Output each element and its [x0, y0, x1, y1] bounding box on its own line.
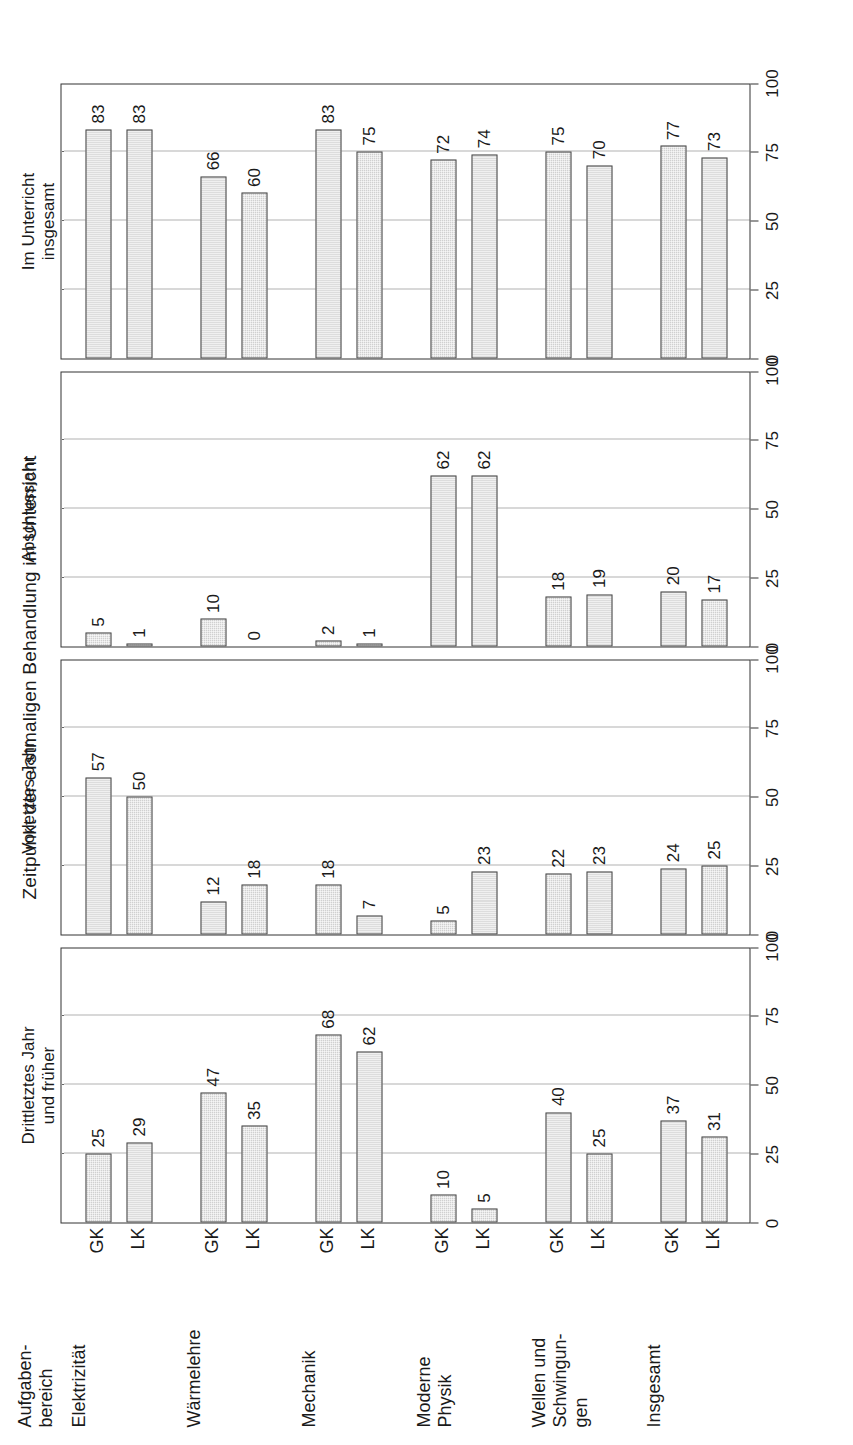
panel-title: Vorletztes Jahr	[18, 659, 38, 935]
axis-tick-label-0: 0	[762, 930, 782, 939]
bar-value-label: 5	[433, 905, 453, 914]
axis-tick-label-100: 100	[762, 69, 782, 97]
group-tick-label-lk: LK	[357, 1227, 378, 1249]
category-label-line: gen	[570, 1397, 590, 1427]
bar	[241, 1125, 267, 1222]
bar	[471, 154, 497, 358]
bar-value-label: 83	[318, 104, 338, 123]
bar	[356, 1051, 382, 1222]
axis-tick	[750, 151, 758, 152]
panel-title: Abschlussjahr	[18, 371, 38, 647]
axis-tick-label-25: 25	[762, 281, 782, 300]
panel-title: Drittletztes Jahrund früher	[18, 947, 58, 1223]
panel-grid: Drittletztes Jahrund früher2529473568621…	[60, 83, 820, 1223]
bar	[471, 475, 497, 646]
bar	[241, 884, 267, 934]
group-tick-label-gk: GK	[661, 1227, 682, 1253]
group-tick-label-gk: GK	[546, 1227, 567, 1253]
rotated-figure-wrapper: Zeitpunkt der erstmaligen Behandlung im …	[0, 0, 853, 1445]
group-tick-label-column: GKLKGKLKGKLKGKLKGKLKGKLK	[60, 1223, 750, 1269]
category-label-line: Schwingun-	[549, 1333, 569, 1427]
bar-value-label: 50	[129, 771, 149, 790]
group-tick-label-gk: GK	[201, 1227, 222, 1253]
gridline-50	[61, 795, 749, 796]
gridline-50	[61, 1083, 749, 1084]
bar-value-label: 60	[244, 167, 264, 186]
axis-tick-label-50: 50	[762, 212, 782, 231]
bar-value-label: 25	[704, 840, 724, 859]
bar-value-label: 37	[663, 1095, 683, 1114]
group-tick-label-gk: GK	[431, 1227, 452, 1253]
bar-value-label: 1	[359, 628, 379, 637]
axis-tick	[750, 659, 758, 660]
category-label-mechanik: Mechanik	[298, 1350, 319, 1427]
bar-value-label: 75	[359, 126, 379, 145]
axis-tick-label-0: 0	[762, 1218, 782, 1227]
bar-value-label: 18	[318, 859, 338, 878]
bar-value-label: 12	[203, 876, 223, 895]
bar-value-label: 0	[244, 631, 264, 640]
panel-title-line: insgesamt	[38, 182, 57, 259]
axis-tick	[750, 289, 758, 290]
axis-tick-label-75: 75	[762, 143, 782, 162]
category-label-elektrizit-t: Elektrizität	[68, 1344, 89, 1427]
gridline-25	[61, 1152, 749, 1153]
bar-value-label: 31	[704, 1112, 724, 1131]
axis-tick	[750, 1015, 758, 1016]
bar-value-label: 66	[203, 151, 223, 170]
category-label-line: Mechanik	[298, 1350, 318, 1427]
gridline-25	[61, 576, 749, 577]
bar	[545, 873, 571, 934]
bar	[701, 157, 727, 358]
category-column-header-line1: Aufgaben-	[14, 1344, 34, 1427]
bar	[430, 1194, 456, 1222]
bar	[126, 796, 152, 934]
axis-tick	[750, 796, 758, 797]
bar-value-label: 73	[704, 132, 724, 151]
axis-tick-label-50: 50	[762, 788, 782, 807]
bar	[545, 1112, 571, 1222]
bar-value-label: 40	[548, 1087, 568, 1106]
axis-tick	[750, 1222, 758, 1223]
bar	[471, 871, 497, 934]
bar-value-label: 25	[589, 1128, 609, 1147]
bar-value-label: 62	[474, 450, 494, 469]
axis-tick-label-25: 25	[762, 569, 782, 588]
bar-value-label: 22	[548, 848, 568, 867]
bar-value-label: 25	[88, 1128, 108, 1147]
axis-tick	[750, 508, 758, 509]
bar	[430, 920, 456, 934]
x-axis: 0255075100	[750, 83, 820, 359]
bar-value-label: 74	[474, 129, 494, 148]
bar-value-label: 83	[88, 104, 108, 123]
bar	[315, 1034, 341, 1222]
category-label-line: Wärmelehre	[183, 1329, 203, 1427]
axis-tick	[750, 358, 758, 359]
bar	[85, 777, 111, 934]
axis-tick-label-0: 0	[762, 354, 782, 363]
bar-value-label: 47	[203, 1067, 223, 1086]
bar	[545, 151, 571, 358]
bar-value-label: 62	[433, 450, 453, 469]
plot-area: 838366608375727475707773	[60, 83, 750, 359]
bar	[85, 129, 111, 358]
axis-tick	[750, 865, 758, 866]
plot-area: 5110021626218192017	[60, 371, 750, 647]
axis-tick-label-75: 75	[762, 1007, 782, 1026]
category-label-wellen-und-schwingungen: Wellen undSchwingun-gen	[528, 1333, 591, 1427]
bar	[200, 901, 226, 934]
axis-tick	[750, 220, 758, 221]
panel-vorletztes-jahr: Vorletztes Jahr5750121818752322232425025…	[60, 659, 820, 935]
bar	[586, 871, 612, 934]
bar-value-label: 75	[548, 126, 568, 145]
axis-tick-label-0: 0	[762, 642, 782, 651]
bar	[356, 151, 382, 358]
bar	[315, 129, 341, 358]
gridline-75	[61, 726, 749, 727]
axis-tick-label-50: 50	[762, 1076, 782, 1095]
panel-abschlussjahr: Abschlussjahr511002162621819201702550751…	[60, 371, 820, 647]
x-axis: 0255075100	[750, 947, 820, 1223]
axis-tick	[750, 371, 758, 372]
axis-tick	[750, 947, 758, 948]
bar	[126, 643, 152, 646]
